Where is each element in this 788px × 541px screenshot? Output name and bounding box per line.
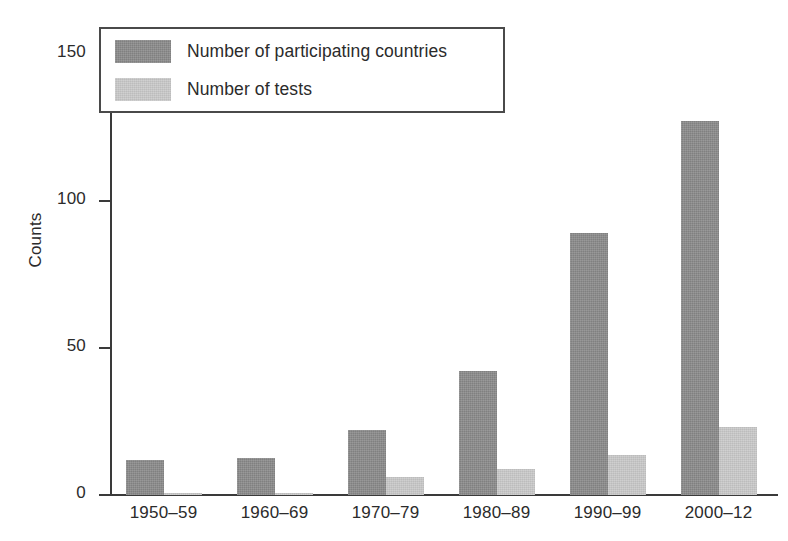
bar-countries xyxy=(237,458,275,495)
y-tick-mark xyxy=(99,347,111,349)
bar-tests xyxy=(386,477,424,495)
legend-swatch-countries xyxy=(115,40,171,63)
y-tick-label: 0 xyxy=(20,483,86,503)
x-tick-label: 1980–89 xyxy=(437,503,557,523)
bar-tests xyxy=(608,455,646,495)
x-tick-label: 1970–79 xyxy=(326,503,446,523)
x-tick-label: 1960–69 xyxy=(215,503,335,523)
legend-entry-tests: Number of tests xyxy=(115,76,312,102)
legend-entry-countries: Number of participating countries xyxy=(115,38,447,64)
legend-swatch-tests xyxy=(115,78,171,101)
legend-label-countries: Number of participating countries xyxy=(187,41,447,62)
y-tick-mark xyxy=(99,200,111,202)
bar-tests xyxy=(497,469,535,495)
y-tick-label: 150 xyxy=(20,42,86,62)
y-tick-mark xyxy=(99,494,111,496)
y-axis-title: Counts xyxy=(26,160,46,320)
x-tick-label: 2000–12 xyxy=(659,503,779,523)
chart-legend: Number of participating countries Number… xyxy=(99,27,505,113)
bar-countries xyxy=(570,233,608,495)
x-tick-label: 1990–99 xyxy=(548,503,668,523)
bar-tests xyxy=(275,493,313,495)
y-tick-label: 50 xyxy=(20,336,86,356)
bar-tests xyxy=(719,427,757,495)
bar-countries xyxy=(126,460,164,495)
legend-label-tests: Number of tests xyxy=(187,79,312,100)
bar-group xyxy=(556,30,667,495)
y-tick-label: 100 xyxy=(20,189,86,209)
bar-countries xyxy=(459,371,497,495)
x-tick-label: 1950–59 xyxy=(104,503,224,523)
bar-countries xyxy=(681,121,719,495)
bar-chart-figure: Counts 050100150 1950–591960–691970–7919… xyxy=(0,0,788,541)
bar-countries xyxy=(348,430,386,495)
bar-group xyxy=(667,30,778,495)
bar-tests xyxy=(164,493,202,495)
